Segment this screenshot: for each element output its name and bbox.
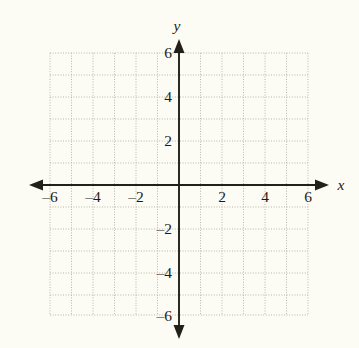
- y-tick-label: 2: [164, 132, 172, 149]
- x-tick-label: 2: [218, 188, 226, 205]
- y-tick-label: 4: [164, 88, 172, 105]
- y-tick-label: 6: [164, 44, 172, 61]
- x-axis-label: x: [337, 176, 345, 193]
- y-axis-label: y: [172, 17, 181, 34]
- y-axis: [174, 39, 185, 339]
- x-tick-label: 6: [304, 188, 312, 205]
- y-axis-bottom-arrowhead: [174, 325, 185, 339]
- y-axis-top-arrowhead: [174, 39, 185, 53]
- x-tick-label: 4: [261, 188, 269, 205]
- x-tick-label: –4: [84, 188, 101, 205]
- x-axis-left-arrowhead: [29, 180, 43, 191]
- y-axis-tick-labels: 6 4 2 –2 –4 –6: [156, 44, 173, 324]
- coordinate-plane-svg: –6 –4 –2 2 4 6 6 4 2 –2 –4 –6 x y: [0, 0, 359, 348]
- y-tick-label: –2: [156, 220, 173, 237]
- y-tick-label: –4: [156, 264, 173, 281]
- x-tick-label: –2: [127, 188, 144, 205]
- coordinate-plane-figure: –6 –4 –2 2 4 6 6 4 2 –2 –4 –6 x y: [0, 0, 359, 348]
- x-tick-label: –6: [41, 188, 58, 205]
- x-axis-right-arrowhead: [315, 180, 329, 191]
- x-axis-tick-labels: –6 –4 –2 2 4 6: [41, 188, 312, 205]
- y-tick-label: –6: [156, 307, 173, 324]
